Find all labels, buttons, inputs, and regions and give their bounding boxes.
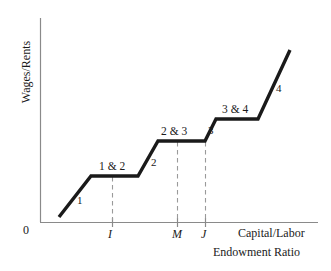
segment-label-3: 3 [208, 125, 214, 136]
chart-figure: Wages/Rents 0 I M J Capital/Labor Endowm… [0, 0, 331, 271]
x-axis-title-line1: Capital/Labor [238, 227, 305, 239]
segment-label-4: 4 [276, 83, 282, 94]
plateau-label-3-4: 3 & 4 [222, 104, 248, 116]
x-tick-label-m: M [172, 228, 182, 240]
plateau-label-1-2: 1 & 2 [99, 161, 125, 173]
segment-label-1: 1 [77, 195, 83, 206]
y-axis-title: Wages/Rents [20, 17, 32, 127]
segment-label-2: 2 [151, 157, 157, 168]
origin-label: 0 [23, 224, 29, 236]
x-tick-label-i: I [108, 228, 112, 240]
x-axis-title-line2: Endowment Ratio [213, 246, 300, 258]
plateau-label-2-3: 2 & 3 [161, 126, 187, 138]
x-tick-label-j: J [201, 228, 206, 240]
